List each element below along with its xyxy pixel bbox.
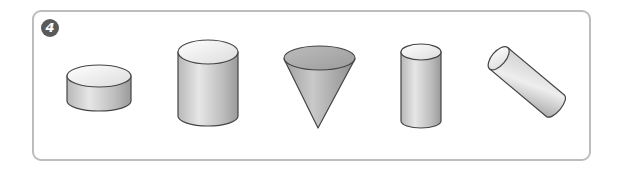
- short-cylinder: [67, 65, 131, 111]
- tall-cylinder: [178, 40, 238, 126]
- cone: [284, 46, 355, 128]
- tilted-cylinder: [484, 43, 569, 120]
- shapes-illustration: [0, 0, 624, 175]
- narrow-cylinder: [401, 44, 441, 128]
